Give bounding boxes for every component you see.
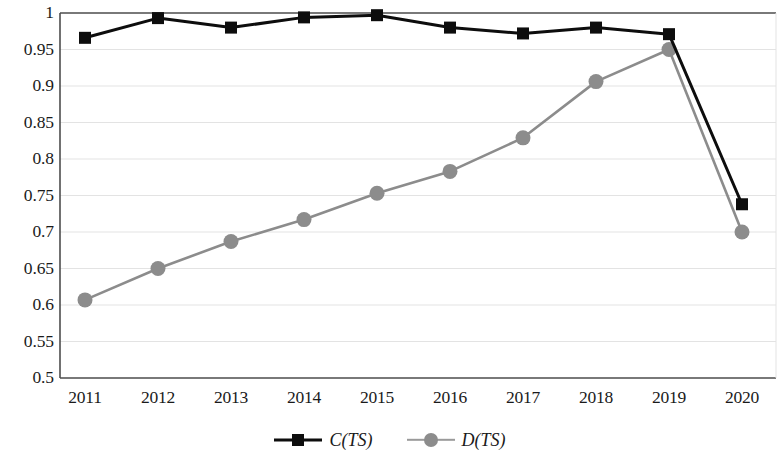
- y-tick-label: 1: [0, 4, 54, 22]
- legend-entry[interactable]: D(TS): [407, 431, 506, 449]
- data-point-marker: [443, 164, 458, 179]
- data-point-marker: [298, 11, 310, 23]
- y-tick-label: 0.75: [0, 187, 54, 205]
- x-tick-label: 2017: [506, 386, 540, 408]
- series-line: [85, 50, 742, 300]
- x-tick-label: 2012: [141, 386, 175, 408]
- legend-circle-marker-icon: [407, 432, 455, 448]
- series-layer: [60, 13, 776, 378]
- line-chart-figure: 10.950.90.850.80.750.70.650.60.550.5 201…: [0, 0, 780, 458]
- legend-label: C(TS): [329, 431, 372, 449]
- y-tick-label: 0.6: [0, 296, 54, 314]
- x-tick-label: 2013: [214, 386, 248, 408]
- y-tick-label: 0.95: [0, 41, 54, 59]
- y-tick-label: 0.8: [0, 150, 54, 168]
- y-tick-label: 0.9: [0, 77, 54, 95]
- legend-marker: [424, 433, 438, 447]
- data-point-marker: [444, 22, 456, 34]
- x-tick-label: 2011: [68, 386, 102, 408]
- legend-entry[interactable]: C(TS): [274, 431, 372, 449]
- y-tick-label: 0.5: [0, 369, 54, 387]
- y-tick-label: 0.65: [0, 260, 54, 278]
- y-tick-label: 0.85: [0, 114, 54, 132]
- data-point-marker: [297, 212, 312, 227]
- data-point-marker: [589, 74, 604, 89]
- data-series: [79, 9, 748, 210]
- data-point-marker: [736, 198, 748, 210]
- data-point-marker: [663, 28, 675, 40]
- x-tick-label: 2018: [579, 386, 613, 408]
- data-series: [78, 42, 750, 307]
- data-point-marker: [370, 186, 385, 201]
- legend-label: D(TS): [462, 431, 506, 449]
- y-tick-label: 0.55: [0, 333, 54, 351]
- data-point-marker: [735, 225, 750, 240]
- x-axis: 2011201220132014201520162017201820192020: [0, 386, 780, 412]
- x-tick-label: 2014: [287, 386, 321, 408]
- plot-area: [60, 13, 776, 378]
- data-point-marker: [371, 9, 383, 21]
- data-point-marker: [517, 27, 529, 39]
- series-line: [85, 15, 742, 204]
- data-point-marker: [590, 22, 602, 34]
- data-point-marker: [516, 130, 531, 145]
- legend-marker: [292, 434, 304, 446]
- data-point-marker: [78, 292, 93, 307]
- data-point-marker: [79, 32, 91, 44]
- y-tick-label: 0.7: [0, 223, 54, 241]
- x-tick-label: 2016: [433, 386, 467, 408]
- legend-square-marker-icon: [274, 432, 322, 448]
- data-point-marker: [151, 261, 166, 276]
- data-point-marker: [152, 12, 164, 24]
- x-tick-label: 2015: [360, 386, 394, 408]
- data-point-marker: [225, 22, 237, 34]
- chart-legend: C(TS)D(TS): [0, 425, 780, 455]
- x-tick-label: 2020: [725, 386, 759, 408]
- data-point-marker: [224, 234, 239, 249]
- x-tick-label: 2019: [652, 386, 686, 408]
